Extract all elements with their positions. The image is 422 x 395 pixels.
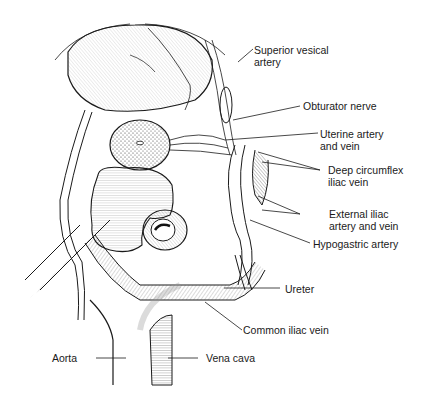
label-line: Ureter (285, 283, 314, 295)
label-line: Vena cava (206, 352, 255, 364)
label-ureter: Ureter (285, 283, 314, 295)
label-hypogastric-artery: Hypogastric artery (313, 238, 398, 250)
label-line: Superior vesical (254, 44, 329, 56)
label-obturator-nerve: Obturator nerve (303, 100, 377, 112)
label-line: and vein (320, 140, 384, 152)
label-line: Uterine artery (320, 128, 384, 140)
anatomy-figure: Superior vesical artery Obturator nerve … (0, 0, 422, 395)
label-line: Hypogastric artery (313, 238, 398, 250)
label-aorta: Aorta (52, 352, 77, 364)
label-line: artery (254, 56, 329, 68)
label-line: iliac vein (328, 176, 403, 188)
label-line: Aorta (52, 352, 77, 364)
illustration (0, 0, 422, 395)
label-line: Obturator nerve (303, 100, 377, 112)
label-line: External iliac (329, 208, 398, 220)
label-line: Deep circumflex (328, 164, 403, 176)
uterus-section (110, 120, 170, 170)
label-external-iliac-artery-vein: External iliac artery and vein (329, 208, 398, 232)
label-common-iliac-vein: Common iliac vein (243, 324, 329, 336)
label-line: Common iliac vein (243, 324, 329, 336)
rectosigmoid (91, 167, 187, 251)
bladder (55, 24, 225, 111)
label-vena-cava: Vena cava (206, 352, 255, 364)
label-deep-circumflex-iliac-vein: Deep circumflex iliac vein (328, 164, 403, 188)
label-uterine-artery-vein: Uterine artery and vein (320, 128, 384, 152)
label-line: artery and vein (329, 220, 398, 232)
label-superior-vesical-artery: Superior vesical artery (254, 44, 329, 68)
